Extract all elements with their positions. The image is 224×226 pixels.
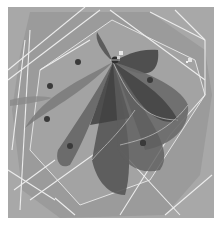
3d-viewport bbox=[8, 7, 214, 218]
dot-marker bbox=[67, 143, 73, 149]
dot-marker bbox=[147, 77, 153, 83]
dot-marker bbox=[140, 140, 146, 146]
scene-render bbox=[8, 7, 214, 218]
dot-marker bbox=[44, 116, 50, 122]
dot-marker bbox=[75, 59, 81, 65]
dot-marker bbox=[47, 83, 53, 89]
